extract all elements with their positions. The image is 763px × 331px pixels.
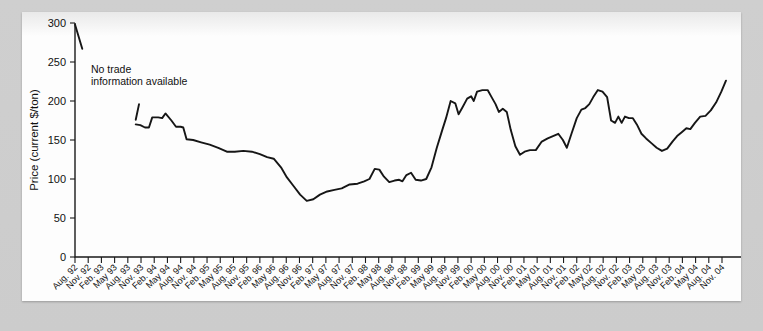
y-tick-labels: 050100150200250300 <box>48 17 66 263</box>
series-line-pre-gap <box>75 25 82 49</box>
x-tick-labels: Aug. 92Nov. 92Feb. 93May 93Aug. 93Nov. 9… <box>50 262 726 291</box>
price-line-chart: 050100150200250300 Aug. 92Nov. 92Feb. 93… <box>22 12 741 301</box>
y-tick-label: 0 <box>60 251 66 263</box>
y-tick-label: 250 <box>48 56 66 68</box>
y-tick-label: 300 <box>48 17 66 29</box>
scan-background: 050100150200250300 Aug. 92Nov. 92Feb. 93… <box>0 0 763 331</box>
series-line-stub <box>136 104 139 120</box>
y-tick-label: 100 <box>48 173 66 185</box>
y-tick-label: 50 <box>54 212 66 224</box>
no-trade-annotation-line1: No trade <box>91 63 131 75</box>
figure-page: 050100150200250300 Aug. 92Nov. 92Feb. 93… <box>22 12 741 301</box>
no-trade-annotation-line2: information available <box>91 75 187 87</box>
chart-axes <box>70 23 741 263</box>
y-axis-title: Price (current $/ton) <box>28 89 40 191</box>
plot-series <box>75 25 726 201</box>
y-tick-label: 200 <box>48 95 66 107</box>
series-line-main <box>136 81 726 201</box>
y-tick-label: 150 <box>48 134 66 146</box>
